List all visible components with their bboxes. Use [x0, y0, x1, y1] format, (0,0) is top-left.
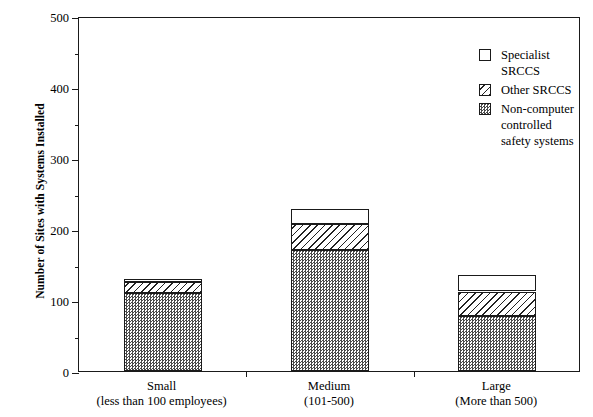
legend-item-0: Specialist SRCCS: [479, 47, 579, 79]
chart-legend: Specialist SRCCSOther SRCCSNon-computer …: [479, 47, 579, 152]
x-tick-mark: [414, 371, 415, 377]
y-tick-mark: [72, 89, 79, 90]
bar-segment-medium-1: [291, 224, 369, 250]
legend-swatch-diagonal-hatch: [479, 84, 491, 96]
x-axis-label-main: Medium: [308, 379, 350, 393]
x-axis-label-sub: (More than 500): [386, 394, 593, 409]
y-minor-tick-mark: [75, 54, 79, 55]
x-axis-label-main: Small: [147, 379, 176, 393]
y-tick-label: 300: [50, 153, 69, 168]
bar-segment-small-0: [124, 293, 202, 371]
y-tick-label: 500: [50, 11, 69, 26]
legend-label: Non-computer controlled safety systems: [501, 101, 579, 149]
y-tick-label: 100: [50, 295, 69, 310]
bar-segment-large-0: [458, 316, 536, 371]
plot-area: 0100200300400500 Specialist SRCCSOther S…: [78, 17, 580, 372]
legend-swatch-empty: [479, 49, 491, 61]
y-minor-tick-mark: [75, 338, 79, 339]
y-minor-tick-mark: [75, 267, 79, 268]
y-tick-mark: [72, 18, 79, 19]
chart-figure: Number of Sites with Systems Installed 0…: [0, 0, 593, 417]
y-minor-tick-mark: [75, 125, 79, 126]
y-minor-tick-mark: [75, 196, 79, 197]
legend-label: Other SRCCS: [501, 82, 572, 98]
bar-segment-medium-2: [291, 209, 369, 224]
x-axis-label-main: Large: [482, 379, 511, 393]
y-tick-mark: [72, 373, 79, 374]
y-axis-title: Number of Sites with Systems Installed: [34, 41, 46, 361]
y-tick-mark: [72, 160, 79, 161]
bar-segment-small-1: [124, 282, 202, 293]
legend-item-2: Non-computer controlled safety systems: [479, 101, 579, 149]
y-tick-mark: [72, 231, 79, 232]
bar-small: [124, 279, 202, 371]
bar-segment-medium-0: [291, 250, 369, 371]
x-axis-label-large: Large(More than 500): [386, 379, 593, 409]
y-tick-mark: [72, 302, 79, 303]
bar-segment-large-2: [458, 275, 536, 291]
y-tick-label: 400: [50, 82, 69, 97]
bar-medium: [291, 209, 369, 371]
bar-large: [458, 275, 536, 371]
legend-label: Specialist SRCCS: [501, 47, 579, 79]
legend-item-1: Other SRCCS: [479, 82, 579, 98]
bar-segment-small-2: [124, 279, 202, 283]
x-tick-mark: [246, 371, 247, 377]
y-tick-label: 200: [50, 224, 69, 239]
legend-swatch-checkerboard: [479, 103, 491, 115]
bar-segment-large-1: [458, 292, 536, 316]
